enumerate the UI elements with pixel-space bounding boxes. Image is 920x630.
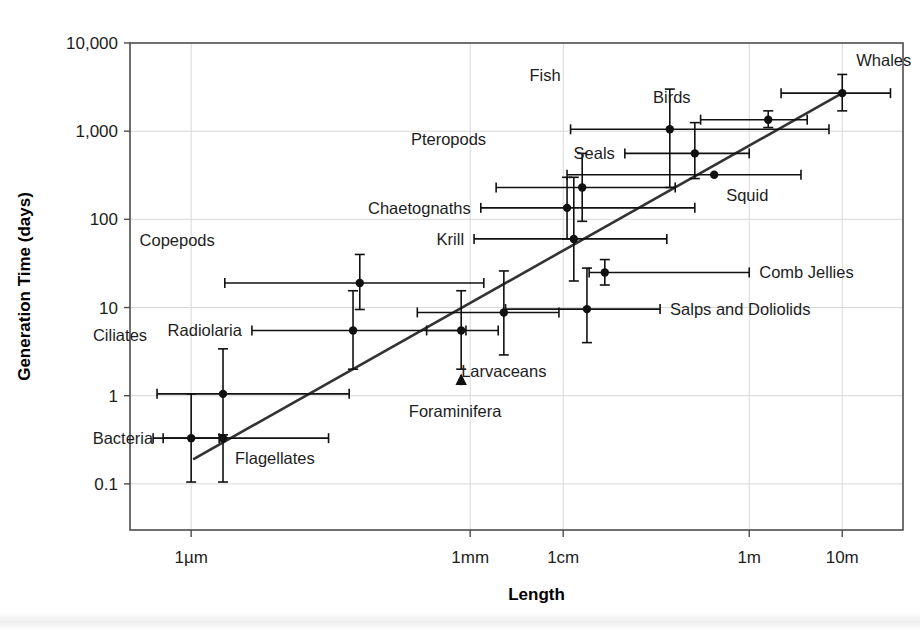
point-marker (838, 89, 846, 97)
point-label-foraminifera: Foraminifera (409, 402, 502, 420)
data-point-squid (567, 170, 801, 180)
x-tick-label: 1m (737, 548, 761, 567)
point-marker (219, 390, 227, 398)
y-tick-label: 1,000 (75, 122, 118, 141)
x-tick-label: 1mm (451, 548, 489, 567)
point-label-salps-and-doliolids: Salps and Doliolids (670, 300, 810, 318)
data-point-copepods (225, 254, 484, 309)
data-point-whales (781, 74, 890, 110)
trend-line (193, 93, 842, 459)
x-axis-title: Length (508, 585, 565, 604)
y-tick-label: 10 (99, 299, 118, 318)
point-label-whales: Whales (856, 51, 911, 69)
data-point-labels: BacteriaCiliatesFlagellatesRadiolariaFor… (93, 51, 912, 467)
point-label-seals: Seals (574, 144, 615, 162)
data-point-birds (701, 111, 808, 128)
point-marker (578, 183, 586, 191)
y-axis-tick-labels: 10,0001,0001001010.1 (66, 34, 130, 494)
data-point-comb-jellies (589, 260, 749, 285)
y-tick-label: 0.1 (94, 475, 118, 494)
point-marker (710, 171, 718, 179)
point-marker (219, 434, 227, 442)
point-marker (563, 204, 571, 212)
data-point-krill (474, 177, 667, 281)
point-marker (457, 326, 465, 334)
data-point-pteropods (496, 153, 675, 221)
x-tick-label: 1µm (174, 548, 207, 567)
point-label-ciliates: Ciliates (93, 326, 147, 344)
point-label-radiolaria: Radiolaria (168, 321, 243, 339)
data-point-salps-and-doliolids (506, 268, 661, 343)
x-axis-tick-labels: 1µm1mm1cm1m10m (174, 530, 858, 567)
generation-time-vs-length-scatter-chart: 10,0001,0001001010.1 1µm1mm1cm1m10m Gene… (0, 0, 920, 630)
point-marker (356, 279, 364, 287)
point-label-pteropods: Pteropods (411, 130, 486, 148)
point-marker (764, 115, 772, 123)
trend-line-segment (193, 93, 842, 459)
data-point-ciliates (157, 349, 349, 435)
point-label-larvaceans: Larvaceans (461, 362, 546, 380)
point-label-flagellates: Flagellates (235, 449, 315, 467)
x-tick-label: 1cm (547, 548, 579, 567)
point-label-fish: Fish (529, 66, 560, 84)
point-marker (666, 125, 674, 133)
point-marker (583, 305, 591, 313)
y-tick-label: 1 (109, 387, 118, 406)
point-marker (349, 326, 357, 334)
y-axis-title: Generation Time (days) (15, 192, 34, 381)
point-label-birds: Birds (653, 88, 691, 106)
point-label-squid: Squid (726, 186, 768, 204)
point-label-bacteria: Bacteria (93, 429, 154, 447)
point-marker (691, 149, 699, 157)
y-tick-label: 100 (90, 210, 118, 229)
point-label-krill: Krill (437, 230, 465, 248)
point-marker (601, 268, 609, 276)
point-label-copepods: Copepods (140, 231, 215, 249)
data-point-chaetognaths (481, 177, 695, 239)
data-point-foraminifera (427, 291, 499, 369)
point-label-chaetognaths: Chaetognaths (368, 199, 471, 217)
y-tick-label: 10,000 (66, 34, 118, 53)
chart-container: 10,0001,0001001010.1 1µm1mm1cm1m10m Gene… (0, 0, 920, 630)
point-label-comb-jellies: Comb Jellies (759, 263, 853, 281)
page-edge-artifact (0, 612, 920, 630)
x-tick-label: 10m (826, 548, 859, 567)
